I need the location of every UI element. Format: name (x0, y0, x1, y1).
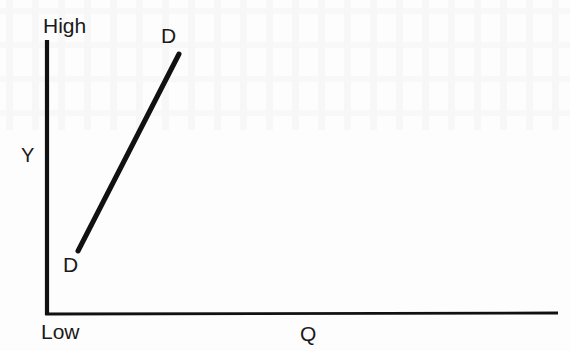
demand-curve-label-top: D (161, 25, 176, 46)
y-axis-title: Y (21, 145, 34, 165)
demand-curve-line (78, 54, 179, 251)
diagram-canvas: High Low Y Q D D (0, 0, 570, 351)
plot-area (0, 0, 570, 351)
y-axis-high-label: High (43, 15, 86, 36)
x-axis-line (45, 313, 558, 314)
x-axis-title: Q (300, 323, 316, 344)
y-axis-low-label: Low (41, 321, 80, 342)
demand-curve-label-bottom: D (63, 254, 78, 275)
